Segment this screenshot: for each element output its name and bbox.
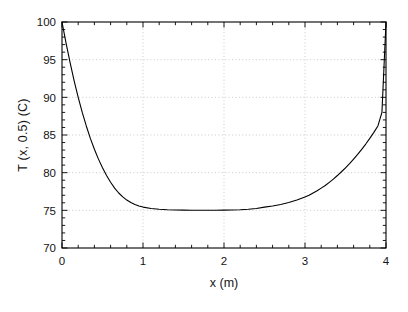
y-axis-title: T (x, 0.5) (C) <box>16 98 30 171</box>
y-tick-label: 75 <box>43 205 56 217</box>
x-tick-label: 1 <box>140 255 146 267</box>
plot-area: 70758085909510001234 <box>0 0 408 312</box>
x-axis-title: x (m) <box>62 276 386 290</box>
y-tick-label: 80 <box>43 167 56 179</box>
y-tick-label: 100 <box>37 16 56 28</box>
y-tick-label: 95 <box>43 54 56 66</box>
chart-figure: T (x, 0.5) (C) 70758085909510001234 x (m… <box>0 0 408 312</box>
y-tick-label: 85 <box>43 129 56 141</box>
y-tick-label: 90 <box>43 92 56 104</box>
y-axis-title-container: T (x, 0.5) (C) <box>10 0 36 270</box>
x-tick-label: 0 <box>59 255 65 267</box>
y-tick-label: 70 <box>43 242 56 254</box>
x-tick-label: 2 <box>221 255 227 267</box>
x-tick-label: 4 <box>383 255 390 267</box>
x-tick-label: 3 <box>302 255 308 267</box>
